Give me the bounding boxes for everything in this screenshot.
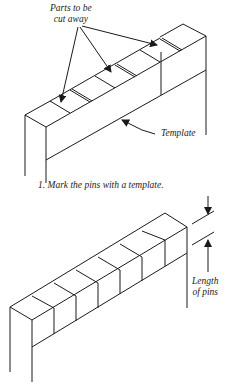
length-of-pins-label: Length of pins [192, 276, 218, 298]
length-label-line1: Length [192, 276, 218, 287]
parts-label-line1: Parts to be [50, 3, 92, 14]
parts-label-line2: cut away [50, 14, 92, 25]
template-label: Template [161, 128, 195, 139]
length-label-line2: of pins [192, 287, 218, 298]
length-dimension [192, 196, 214, 272]
parts-cut-away-label: Parts to be cut away [50, 3, 92, 25]
dovetail-pins-diagram [0, 0, 229, 390]
top-board-diagram [25, 24, 206, 183]
figure-caption: 1. Mark the pins with a template. [38, 180, 164, 190]
template-arrow [122, 120, 155, 134]
bottom-board-diagram [10, 213, 187, 382]
